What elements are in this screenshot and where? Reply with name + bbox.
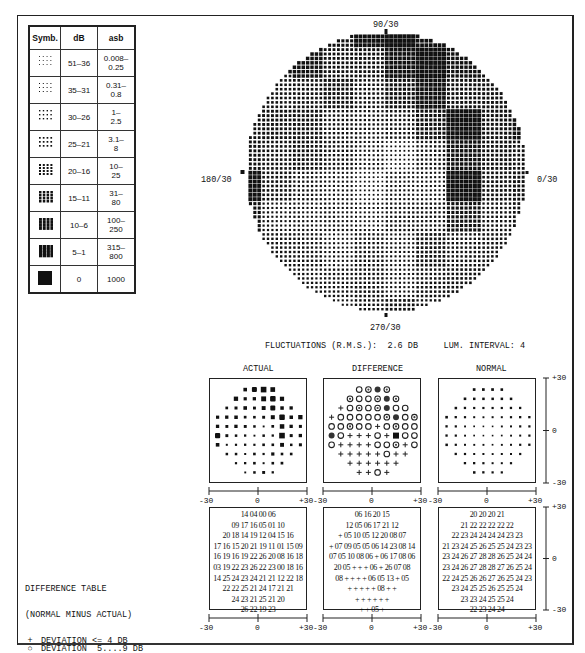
x-axis-tick-label: -30 [199, 623, 213, 632]
y-axis-tick-label: -30 [552, 605, 566, 614]
panel-symbol-grid-actual [209, 378, 307, 483]
x-axis-tick-label: -30 [428, 623, 442, 632]
field-label-top: 90/30 [373, 20, 399, 30]
difference-legend-item: ○DEVIATION 5....9 DB [25, 645, 143, 653]
numeric-values-difference: 06 16 20 15 12 05 06 17 21 12 + 05 10 05… [323, 510, 421, 616]
panel-title-normal: NORMAL [476, 364, 507, 374]
y-axis-tick-label: -30 [552, 478, 566, 487]
x-axis-tick-label: -30 [428, 496, 442, 505]
fluctuations-value: FLUCTUATIONS (R.M.S.): 2.6 DB [265, 341, 418, 351]
field-label-right: 0/30 [537, 175, 557, 185]
panel-symbol-grid-difference [323, 378, 421, 483]
x-axis-tick-label: 0 [255, 496, 260, 505]
x-axis-tick-label: 0 [255, 623, 260, 632]
x-axis-tick-label: +30 [413, 623, 427, 632]
x-axis-tick-label: -30 [313, 623, 327, 632]
panel-symbol-grid-normal [438, 378, 536, 483]
x-axis-tick-label: 0 [484, 623, 489, 632]
x-axis-tick-label: -30 [313, 496, 327, 505]
y-axis-tick-label: 0 [552, 554, 557, 563]
field-label-left: 180/30 [201, 175, 232, 185]
y-axis-tick-label: +30 [552, 502, 566, 511]
numeric-values-actual: 14 04 00 06 09 17 16 05 01 10 20 18 14 1… [209, 510, 307, 616]
stats-line: FLUCTUATIONS (R.M.S.): 2.6 DB LUM. INTER… [265, 341, 525, 351]
x-axis-tick-label: 0 [369, 623, 374, 632]
x-axis-tick-label: -30 [199, 496, 213, 505]
x-axis-tick-label: 0 [484, 496, 489, 505]
difference-legend-subtitle: (NORMAL MINUS ACTUAL) [25, 611, 143, 620]
y-axis-tick-label: +30 [552, 373, 566, 382]
difference-legend: DIFFERENCE TABLE (NORMAL MINUS ACTUAL) +… [25, 568, 143, 653]
x-axis-tick-label: +30 [413, 496, 427, 505]
panel-title-actual: ACTUAL [243, 364, 274, 374]
x-axis-tick-label: 0 [369, 496, 374, 505]
panel-title-difference: DIFFERENCE [352, 364, 403, 374]
x-axis-tick-label: +30 [528, 496, 542, 505]
numeric-values-normal: 20 20 20 21 21 22 22 22 22 22 22 23 24 2… [438, 510, 536, 616]
deviation-label: DEVIATION 5....9 DB [41, 645, 143, 653]
x-axis-tick-label: +30 [528, 623, 542, 632]
difference-legend-title: DIFFERENCE TABLE [25, 585, 143, 594]
deviation-symbol-icon: ○ [25, 645, 35, 653]
y-axis-tick-label: 0 [552, 426, 557, 435]
field-label-bottom: 270/30 [370, 323, 401, 333]
x-axis-tick-label: +30 [299, 623, 313, 632]
x-axis-tick-label: +30 [299, 496, 313, 505]
lum-interval-value: LUM. INTERVAL: 4 [444, 341, 526, 351]
